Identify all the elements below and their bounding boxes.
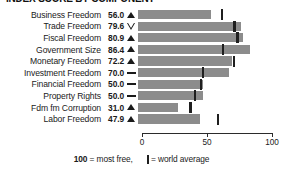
chart-row: Business Freedom56.0: [0, 9, 283, 21]
component-value: 31.0: [104, 103, 124, 113]
legend-best-text: = most free,: [90, 154, 133, 164]
axis-tick-label: 100: [265, 138, 279, 147]
chart-row: Monetary Freedom72.2: [0, 55, 283, 67]
chart-row: Fdm fm Corruption31.0: [0, 102, 283, 114]
axis-tick: [272, 133, 273, 137]
axis-tick-label: 50: [202, 138, 211, 147]
trend-indicator: [124, 22, 138, 30]
bar-track: [138, 32, 283, 44]
legend-best-value: 100: [74, 154, 88, 164]
bar-track: [138, 79, 283, 91]
x-axis: 050100: [0, 133, 283, 153]
axis-tick-label: 0: [140, 138, 145, 147]
component-label: Business Freedom: [0, 10, 104, 20]
legend-most-free: 100 = most free,: [74, 154, 133, 164]
triangle-up-filled-icon: [127, 35, 135, 41]
value-bar: [138, 10, 211, 19]
component-label: Investment Freedom: [0, 68, 104, 78]
dash-icon: [127, 72, 136, 74]
bar-track: [138, 9, 283, 21]
component-label: Property Rights: [0, 91, 104, 101]
world-average-marker: [221, 9, 223, 20]
trend-indicator: [124, 46, 138, 54]
value-bar: [138, 114, 200, 123]
page-title: INDEX SCORE BY COMPONENT: [6, 0, 154, 4]
value-bar: [138, 45, 250, 54]
world-average-marker: [236, 32, 238, 43]
component-value: 50.0: [104, 79, 124, 89]
trend-indicator: [124, 92, 138, 100]
chart-rows: Business Freedom56.0Trade Freedom79.6Fis…: [0, 9, 283, 125]
triangle-up-filled-icon: [127, 58, 135, 64]
trend-indicator: [124, 34, 138, 42]
world-average-marker: [233, 56, 235, 67]
component-label: Monetary Freedom: [0, 56, 104, 66]
bar-track: [138, 21, 283, 33]
value-bar: [138, 80, 203, 89]
chart-row: Property Rights50.0: [0, 90, 283, 102]
component-value: 86.4: [104, 45, 124, 55]
component-value: 80.9: [104, 33, 124, 43]
bar-track: [138, 55, 283, 67]
bar-track: [138, 44, 283, 56]
triangle-up-filled-icon: [127, 46, 135, 52]
component-label: Trade Freedom: [0, 21, 104, 31]
component-label: Fiscal Freedom: [0, 33, 104, 43]
dash-icon: [127, 95, 136, 97]
axis-tick: [142, 133, 143, 137]
world-average-marker: [217, 114, 219, 125]
triangle-down-hollow-icon: [127, 23, 136, 30]
component-label: Government Size: [0, 45, 104, 55]
triangle-up-filled-icon: [127, 104, 135, 110]
value-bar: [138, 22, 241, 31]
bar-track: [138, 67, 283, 79]
world-average-marker: [202, 67, 204, 78]
trend-indicator: [124, 69, 138, 77]
component-value: 50.0: [104, 91, 124, 101]
world-average-marker: [194, 90, 196, 101]
value-bar: [138, 103, 178, 112]
index-score-chart: INDEX SCORE BY COMPONENT Business Freedo…: [0, 0, 283, 175]
component-value: 72.2: [104, 56, 124, 66]
bar-track: [138, 113, 283, 125]
world-average-marker: [222, 44, 224, 55]
component-value: 70.0: [104, 68, 124, 78]
value-bar: [138, 33, 243, 42]
bar-track: [138, 102, 283, 114]
legend-world-average-text: = world average: [151, 154, 209, 164]
trend-indicator: [124, 104, 138, 112]
trend-indicator: [124, 80, 138, 88]
dash-icon: [127, 83, 136, 85]
world-average-marker: [200, 79, 202, 90]
chart-row: Financial Freedom50.0: [0, 79, 283, 91]
chart-row: Investment Freedom70.0: [0, 67, 283, 79]
trend-indicator: [124, 57, 138, 65]
chart-title-cropped: INDEX SCORE BY COMPONENT: [6, 0, 277, 4]
world-average-marker: [233, 21, 235, 32]
chart-row: Fiscal Freedom80.9: [0, 32, 283, 44]
component-label: Financial Freedom: [0, 79, 104, 89]
bar-track: [138, 90, 283, 102]
triangle-up-filled-icon: [127, 12, 135, 18]
component-value: 56.0: [104, 10, 124, 20]
value-bar: [138, 68, 229, 77]
component-value: 47.9: [104, 114, 124, 124]
chart-legend: 100 = most free, = world average: [0, 154, 283, 164]
component-label: Fdm fm Corruption: [0, 103, 104, 113]
value-bar: [138, 56, 232, 65]
component-label: Labor Freedom: [0, 114, 104, 124]
chart-row: Government Size86.4: [0, 44, 283, 56]
axis-tick: [207, 133, 208, 137]
triangle-up-filled-icon: [127, 116, 135, 122]
world-average-tick-icon: [147, 155, 149, 164]
chart-row: Trade Freedom79.6: [0, 21, 283, 33]
trend-indicator: [124, 115, 138, 123]
chart-row: Labor Freedom47.9: [0, 113, 283, 125]
component-value: 79.6: [104, 21, 124, 31]
world-average-marker: [189, 102, 191, 113]
trend-indicator: [124, 11, 138, 19]
